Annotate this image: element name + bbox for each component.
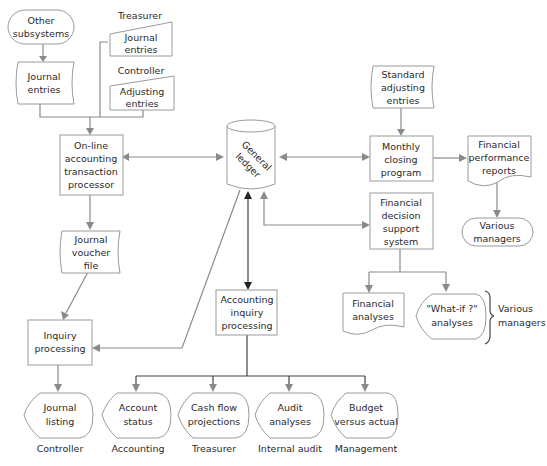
node-text: Cash flow <box>191 402 237 413</box>
node-text: processing <box>34 343 85 354</box>
node-text: Adjusting <box>120 86 164 97</box>
node-text: status <box>123 416 152 427</box>
node-text: Journal <box>27 71 61 82</box>
node-text: file <box>84 260 99 271</box>
node-text: "What-if ?" <box>426 303 477 314</box>
node-text: managers <box>498 317 546 328</box>
node-text: Journal <box>124 32 158 43</box>
node-journal-entries: Journal entries <box>16 62 74 104</box>
output-audit-analyses: Audit analyses Internal audit <box>255 393 324 454</box>
arrowhead-icon <box>442 284 450 292</box>
node-journal-voucher-file: Journal voucher file <box>60 231 120 273</box>
node-financial-dss: Financial decision support system <box>370 193 433 249</box>
connector-voucher-inquiry <box>66 272 88 313</box>
node-text: Account <box>119 402 158 413</box>
node-text: subsystems <box>13 28 69 39</box>
node-text: Journal <box>43 402 77 413</box>
node-text: Other <box>28 15 55 26</box>
connector-treasurer-join <box>100 42 108 117</box>
arrowhead-icon <box>365 285 373 293</box>
node-text: system <box>384 236 418 247</box>
node-controller-adjusting-entries: Adjusting entries <box>110 76 174 110</box>
node-text: Inquiry <box>43 330 76 341</box>
node-text: adjusting <box>381 82 425 93</box>
node-text: entries <box>126 98 159 109</box>
arrowhead-icon <box>362 153 370 161</box>
node-text: voucher <box>72 247 111 258</box>
node-text: entries <box>125 44 158 55</box>
node-text: Accounting <box>220 294 273 305</box>
node-text: support <box>383 223 420 234</box>
node-text: closing <box>384 154 417 165</box>
node-text: analyses <box>431 317 473 328</box>
node-text: Financial <box>380 197 422 208</box>
arrowhead-icon <box>244 282 252 290</box>
node-monthly-closing: Monthly closing program <box>370 136 433 181</box>
arrowhead-icon <box>285 384 293 392</box>
brace-various-managers: Various managers <box>485 291 546 344</box>
arrowhead-icon <box>86 222 94 230</box>
node-various-managers-top: Various managers <box>462 218 533 246</box>
node-text: reports <box>482 165 516 176</box>
output-budget-versus-actual: Budget versus actual Management <box>331 393 398 454</box>
output-account-status: Account status Accounting <box>102 393 171 454</box>
node-text: Various <box>480 220 515 231</box>
node-text: Standard <box>381 69 424 80</box>
node-what-if-analyses: "What-if ?" analyses <box>416 294 486 339</box>
node-standard-adjusting-entries: Standard adjusting entries <box>371 66 434 108</box>
svg-text:subsystems: subsystems <box>13 28 69 39</box>
node-text: entries <box>387 95 420 106</box>
node-text: On-line <box>74 140 108 151</box>
node-text: performance <box>469 152 530 163</box>
node-text: transaction <box>64 166 118 177</box>
node-text: Financial <box>478 139 520 150</box>
arrowhead-icon <box>362 221 370 229</box>
arrowhead-icon <box>493 210 501 218</box>
arrowhead-icon <box>209 384 217 392</box>
arrowhead-icon <box>279 153 287 161</box>
node-text: decision <box>381 210 420 221</box>
node-financial-performance-reports: Financial performance reports <box>468 136 531 186</box>
output-user-label: Management <box>335 443 398 454</box>
node-accounting-inquiry-processing: Accounting inquiry processing <box>216 290 277 335</box>
node-text: inquiry <box>231 307 264 318</box>
flowchart: Other subsystems Journal entries Treasur… <box>0 0 547 466</box>
node-text: Budget <box>349 402 383 413</box>
output-cash-flow-projections: Cash flow projections Treasurer <box>178 393 249 454</box>
output-user-label: Accounting <box>111 443 164 454</box>
connector-ledger-dss <box>264 198 364 225</box>
arrowhead-icon <box>39 56 47 62</box>
arrowhead-icon <box>459 154 467 162</box>
svg-text:Other: Other <box>28 15 55 26</box>
node-text: program <box>381 167 422 178</box>
arrowhead-icon <box>216 153 224 161</box>
node-inquiry-processing: Inquiry processing <box>28 320 92 365</box>
node-other-subsystems: Other subsystems <box>8 10 74 44</box>
node-text: projections <box>188 416 240 427</box>
node-financial-analyses: Financial analyses <box>343 293 404 334</box>
node-text: Audit <box>278 402 303 413</box>
arrowhead-icon <box>260 191 268 199</box>
node-text: Monthly <box>382 141 420 152</box>
node-text: analyses <box>269 416 311 427</box>
arrowhead-icon <box>132 384 140 392</box>
arrowhead-icon <box>92 344 100 352</box>
arrowhead-icon <box>397 129 405 136</box>
output-user-label: Treasurer <box>191 443 236 454</box>
node-text: Financial <box>352 298 394 309</box>
node-treasurer-journal-entries: Journal entries <box>110 22 172 56</box>
node-text: versus actual <box>334 416 398 427</box>
node-text: accounting <box>65 153 118 164</box>
label-controller: Controller <box>118 65 165 76</box>
node-text: managers <box>473 233 521 244</box>
node-text: Journal <box>74 234 108 245</box>
output-journal-listing: Journal listing Controller <box>24 393 93 454</box>
node-general-ledger: General ledger <box>227 120 275 189</box>
node-text: processor <box>68 179 114 190</box>
node-text: analyses <box>352 311 394 322</box>
node-online-processor: On-line accounting transaction processor <box>60 135 123 195</box>
arrowhead-icon <box>244 191 252 199</box>
output-user-label: Internal audit <box>258 443 322 454</box>
arrowhead-icon <box>361 384 369 392</box>
arrowhead-icon <box>86 128 94 135</box>
